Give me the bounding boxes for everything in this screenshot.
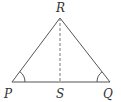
label-q: Q	[103, 87, 113, 101]
triangle-diagram: R P S Q	[0, 0, 121, 102]
label-p: P	[3, 87, 13, 101]
angle-mark-p	[20, 72, 25, 82]
label-r: R	[55, 1, 65, 15]
label-s: S	[56, 87, 64, 101]
angle-mark-q	[97, 72, 102, 82]
side-pr	[12, 18, 60, 82]
side-rq	[60, 18, 110, 82]
